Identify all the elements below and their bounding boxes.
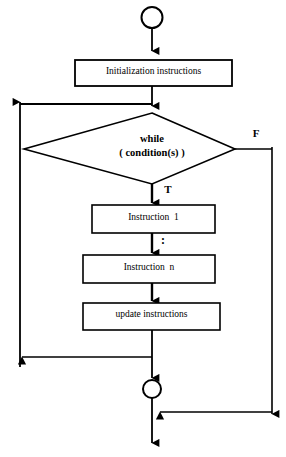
true-branch-label: T [160,183,176,195]
false-branch-label: F [248,127,264,139]
ellipsis-label: : [156,234,170,247]
flowchart-canvas: Initialization instructions while ( cond… [0,0,286,457]
update-label: update instructions [83,309,220,320]
init-box-label: Initialization instructions [75,66,232,77]
decision-label-line1: while [52,133,252,145]
decision-label-line2: ( condition(s) ) [52,147,252,159]
start-node [142,7,163,28]
instruction-last-label: Instruction n [83,262,215,273]
merge-node [143,380,161,398]
instruction-first-label: Instruction 1 [92,212,215,223]
